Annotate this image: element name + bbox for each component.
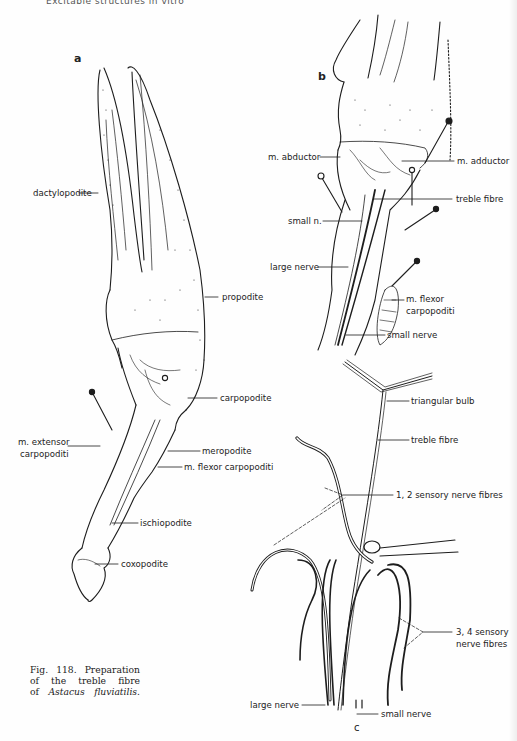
label-small-n: small n.	[288, 216, 322, 226]
label-treble-fibre-b: treble fibre	[456, 194, 503, 204]
panel-label-a: a	[74, 52, 81, 65]
panel-label-c: c	[354, 722, 360, 733]
caption-line-1: Fig. 118. Preparation	[30, 664, 140, 675]
fibre-drawing-c	[252, 360, 458, 710]
label-m-flexor-carpopoditi: m. flexor carpopoditi	[184, 462, 273, 472]
label-m-abductor: m. abductor	[268, 152, 320, 162]
label-m-flexor-b-2: carpopoditi	[406, 306, 455, 316]
figure-illustration	[0, 0, 517, 741]
label-sensory-fibres-3-4-2: nerve fibres	[456, 639, 507, 649]
label-carpopodite: carpopodite	[220, 393, 271, 403]
label-coxopodite: coxopodite	[121, 559, 168, 569]
panel-label-b: b	[318, 70, 326, 83]
claw-drawing-b	[318, 15, 452, 355]
label-large-nerve-b: large nerve	[270, 262, 319, 272]
label-triangular-bulb: triangular bulb	[411, 396, 475, 406]
label-small-nerve-c: small nerve	[381, 709, 431, 719]
label-treble-fibre-c: treble fibre	[411, 435, 458, 445]
label-propodite: propodite	[222, 292, 263, 302]
figure-caption: Fig. 118. Preparation of the treble fibr…	[30, 664, 140, 697]
page-gutter-shadow	[509, 0, 517, 741]
label-m-adductor: m. adductor	[457, 156, 509, 166]
label-m-flexor-b: m. flexor	[406, 294, 444, 304]
label-meropodite: meropodite	[202, 446, 251, 456]
caption-line-3-prefix: of	[30, 686, 39, 697]
label-dactylopodite: dactylopodite	[33, 188, 92, 198]
label-ischiopodite: ischiopodite	[140, 518, 192, 528]
label-m-extensor-2: carpopoditi	[20, 449, 69, 459]
label-m-extensor: m. extensor	[18, 437, 69, 447]
label-sensory-fibres-3-4: 3, 4 sensory	[456, 627, 509, 637]
caption-species: Astacus fluviatilis.	[48, 686, 140, 697]
label-sensory-fibres-1-2: 1, 2 sensory nerve fibres	[396, 490, 503, 500]
book-page: Excitable structures in vitro	[0, 0, 517, 741]
caption-line-2: of the treble fibre	[30, 675, 140, 686]
label-large-nerve-c: large nerve	[250, 700, 299, 710]
label-small-nerve-b: small nerve	[387, 330, 437, 340]
